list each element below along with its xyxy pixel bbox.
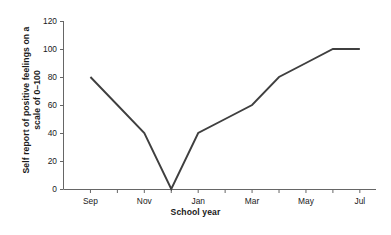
y-axis-tick-label: 100: [43, 44, 57, 54]
x-axis-tick-label: Mar: [245, 196, 260, 206]
y-axis-tick-label: 120: [43, 16, 57, 26]
y-axis-tick-label: 60: [48, 100, 58, 110]
x-axis-tick-label: Nov: [137, 196, 153, 206]
chart-figure: Self report of positive feelings on a sc…: [0, 0, 391, 235]
y-axis-tick-label: 40: [48, 128, 58, 138]
data-series: [90, 49, 359, 189]
plot-area: 020406080100120 SepNovJanMarMayJul: [0, 0, 391, 235]
y-axis-tick-label: 20: [48, 156, 58, 166]
x-axis-label: School year: [0, 207, 391, 217]
x-axis: SepNovJanMarMayJul: [64, 190, 377, 206]
x-axis-tick-label: Sep: [83, 196, 98, 206]
y-axis-tick-label: 80: [48, 72, 58, 82]
y-axis-tick-label: 0: [52, 184, 57, 194]
x-axis-tick-label: Jul: [354, 196, 365, 206]
y-axis: 020406080100120: [43, 16, 63, 194]
x-axis-tick-label: May: [298, 196, 315, 206]
x-axis-tick-label: Jan: [191, 196, 205, 206]
